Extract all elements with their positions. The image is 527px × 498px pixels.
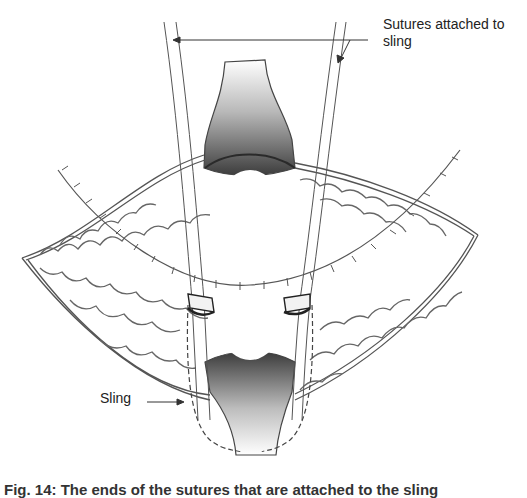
lower-bowel-segment <box>205 352 295 456</box>
figure-caption: Fig. 14: The ends of the sutures that ar… <box>4 481 438 498</box>
sling-label: Sling <box>100 390 131 407</box>
upper-bowel-segment <box>204 60 295 176</box>
sutures-label: Sutures attached to sling <box>383 16 523 50</box>
central-lumen <box>202 170 298 360</box>
